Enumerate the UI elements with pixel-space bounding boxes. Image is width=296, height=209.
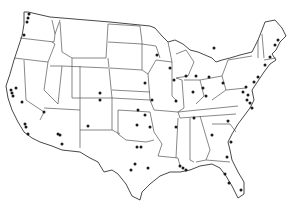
location-dot bbox=[10, 89, 13, 92]
location-dot bbox=[24, 123, 27, 126]
location-dot bbox=[182, 167, 185, 170]
location-dot bbox=[185, 75, 188, 78]
location-dot bbox=[242, 91, 245, 94]
location-dot bbox=[208, 76, 211, 79]
location-dot bbox=[246, 99, 249, 102]
location-dot bbox=[213, 47, 216, 50]
location-dot bbox=[61, 143, 64, 146]
location-dot bbox=[151, 99, 154, 102]
location-dot bbox=[147, 167, 150, 170]
location-dot bbox=[245, 86, 248, 89]
location-dot bbox=[179, 165, 182, 168]
location-dot bbox=[144, 82, 147, 85]
location-dot bbox=[264, 64, 267, 67]
us-map: Contiguous United States locations map bbox=[0, 0, 296, 209]
location-dot bbox=[257, 76, 260, 79]
map-canvas bbox=[0, 0, 296, 209]
location-dot bbox=[277, 39, 280, 42]
location-dot bbox=[192, 91, 195, 94]
location-dot bbox=[43, 111, 46, 114]
location-dot bbox=[156, 54, 159, 57]
location-dot bbox=[136, 146, 139, 149]
location-dot bbox=[195, 75, 198, 78]
location-dot bbox=[193, 117, 196, 120]
location-dot bbox=[227, 120, 230, 123]
location-dot bbox=[87, 125, 90, 128]
location-dot bbox=[140, 146, 143, 149]
location-dot bbox=[249, 102, 252, 105]
location-dot bbox=[11, 92, 14, 95]
location-dot bbox=[137, 109, 140, 112]
location-dot bbox=[222, 82, 225, 85]
location-dot bbox=[175, 100, 178, 103]
location-dot bbox=[211, 134, 214, 137]
location-dot bbox=[202, 87, 205, 90]
location-dot bbox=[175, 126, 178, 129]
location-dot bbox=[15, 87, 18, 90]
location-dot bbox=[27, 17, 30, 20]
location-dot bbox=[185, 169, 188, 172]
location-dot bbox=[224, 173, 227, 176]
location-dot bbox=[134, 163, 137, 166]
location-dot bbox=[173, 79, 176, 82]
location-dot bbox=[23, 34, 26, 37]
location-dot bbox=[169, 67, 172, 70]
location-dot bbox=[26, 21, 29, 24]
location-dot bbox=[136, 124, 139, 127]
location-dot bbox=[226, 156, 229, 159]
location-dot bbox=[251, 107, 254, 110]
location-dot bbox=[144, 114, 147, 117]
location-dot bbox=[253, 81, 256, 84]
location-dot bbox=[247, 94, 250, 97]
location-dot bbox=[230, 141, 233, 144]
location-dot bbox=[205, 95, 208, 98]
location-dot bbox=[274, 44, 277, 47]
location-dots bbox=[10, 13, 280, 192]
national-outline bbox=[6, 12, 286, 200]
location-dot bbox=[228, 182, 231, 185]
location-dot bbox=[25, 126, 28, 129]
location-dot bbox=[12, 95, 15, 98]
location-dot bbox=[99, 92, 102, 95]
location-dot bbox=[99, 99, 102, 102]
location-dot bbox=[59, 134, 62, 137]
location-dot bbox=[27, 133, 30, 136]
location-dot bbox=[21, 101, 24, 104]
location-dot bbox=[269, 56, 272, 59]
location-dot bbox=[130, 169, 133, 172]
location-dot bbox=[28, 13, 31, 16]
location-dot bbox=[149, 126, 152, 129]
location-dot bbox=[240, 189, 243, 192]
state-borders bbox=[14, 20, 276, 166]
